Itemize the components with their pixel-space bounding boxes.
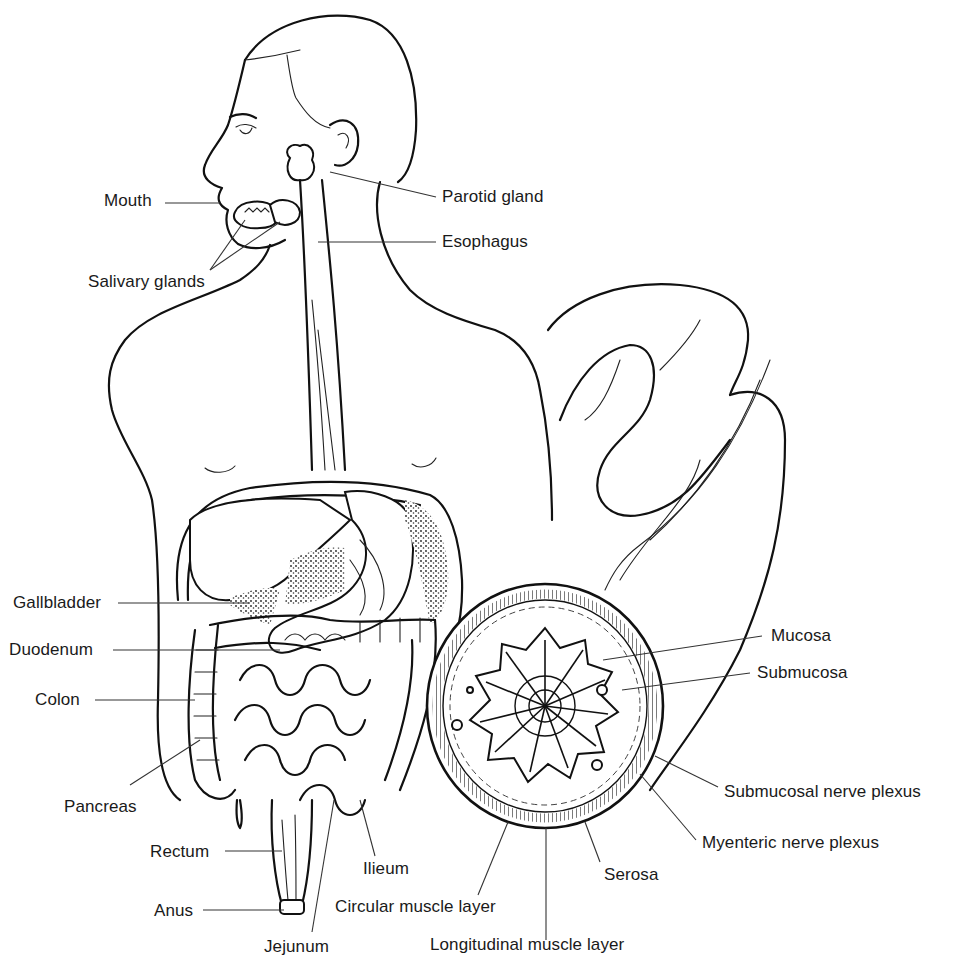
label-parotid-gland: Parotid gland (442, 187, 543, 207)
label-mucosa: Mucosa (771, 626, 831, 646)
label-myenteric-nerve-plexus: Myenteric nerve plexus (702, 833, 879, 853)
digestive-system-illustration (0, 0, 968, 964)
label-colon: Colon (35, 690, 80, 710)
label-circular-muscle-layer: Circular muscle layer (335, 897, 496, 917)
abdominal-organs (177, 482, 462, 653)
label-longitudinal-muscle-layer: Longitudinal muscle layer (430, 935, 624, 955)
label-ilieum: Ilieum (363, 859, 409, 879)
label-esophagus: Esophagus (442, 232, 528, 252)
label-anus: Anus (154, 901, 193, 921)
label-jejunum: Jejunum (264, 937, 329, 957)
label-pancreas: Pancreas (64, 797, 137, 817)
label-mouth: Mouth (104, 191, 152, 211)
esophagus-shape (300, 180, 345, 470)
label-duodenum: Duodenum (9, 640, 93, 660)
label-submucosa: Submucosa (757, 663, 848, 683)
label-rectum: Rectum (150, 842, 209, 862)
intestinal-cross-section (427, 584, 663, 828)
label-salivary-glands: Salivary glands (88, 272, 205, 292)
label-gallbladder: Gallbladder (13, 593, 101, 613)
label-serosa: Serosa (604, 865, 658, 885)
label-submucosal-nerve-plexus: Submucosal nerve plexus (724, 782, 921, 802)
